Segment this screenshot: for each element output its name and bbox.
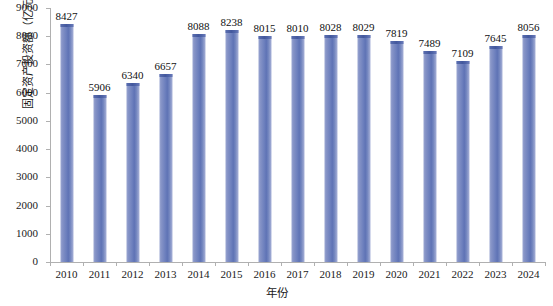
bar[interactable] <box>489 46 502 262</box>
y-tick-label: 9000 <box>4 1 38 13</box>
bar[interactable] <box>357 35 370 262</box>
x-tick-label: 2021 <box>413 268 446 280</box>
y-tick-label: 1000 <box>4 227 38 239</box>
bar-top-cap <box>423 51 436 54</box>
x-tick-label: 2013 <box>149 268 182 280</box>
y-tick-label: 7000 <box>4 57 38 69</box>
x-tick-label: 2018 <box>314 268 347 280</box>
x-tick-label: 2024 <box>512 268 545 280</box>
bar-slot: 8015 <box>248 8 281 262</box>
y-tick-label: 0 <box>4 255 38 267</box>
x-tick-mark <box>248 262 249 266</box>
x-tick-mark <box>380 262 381 266</box>
bar-slot: 6657 <box>149 8 182 262</box>
x-axis-line <box>50 262 545 263</box>
bar[interactable] <box>159 74 172 262</box>
x-tick-label: 2016 <box>248 268 281 280</box>
bar-top-cap <box>291 36 304 39</box>
x-tick-label: 2015 <box>215 268 248 280</box>
bar-top-cap <box>489 46 502 49</box>
bar[interactable] <box>225 30 238 262</box>
x-tick-mark <box>281 262 282 266</box>
bar-top-cap <box>93 95 106 98</box>
x-tick-mark <box>446 262 447 266</box>
bar-slot: 8427 <box>50 8 83 262</box>
x-tick-mark <box>215 262 216 266</box>
bar[interactable] <box>291 36 304 262</box>
bar-slot: 7489 <box>413 8 446 262</box>
x-tick-label: 2017 <box>281 268 314 280</box>
bar[interactable] <box>423 51 436 262</box>
bar[interactable] <box>192 34 205 262</box>
bar[interactable] <box>522 35 535 262</box>
x-tick-mark <box>314 262 315 266</box>
y-tick-label: 2000 <box>4 199 38 211</box>
bar-top-cap <box>258 36 271 39</box>
y-tick-label: 5000 <box>4 114 38 126</box>
bar-top-cap <box>159 74 172 77</box>
x-tick-mark <box>479 262 480 266</box>
bar-slot: 7645 <box>479 8 512 262</box>
y-tick-label: 6000 <box>4 86 38 98</box>
y-tick-label: 8000 <box>4 29 38 41</box>
bar-slot: 8238 <box>215 8 248 262</box>
x-tick-label: 2012 <box>116 268 149 280</box>
bar[interactable] <box>126 83 139 262</box>
y-axis-title: 固定资产投资额（亿元） <box>19 0 35 163</box>
x-tick-mark <box>50 262 51 266</box>
bar-slot: 8029 <box>347 8 380 262</box>
x-tick-label: 2010 <box>50 268 83 280</box>
bar[interactable] <box>258 36 271 262</box>
bar-slot: 5906 <box>83 8 116 262</box>
bar[interactable] <box>390 41 403 262</box>
bar-slot: 7109 <box>446 8 479 262</box>
x-tick-label: 2011 <box>83 268 116 280</box>
y-tick-label: 3000 <box>4 170 38 182</box>
x-tick-mark <box>347 262 348 266</box>
bar-top-cap <box>60 24 73 27</box>
bar-value-label: 8056 <box>506 21 552 33</box>
bar-top-cap <box>357 35 370 38</box>
x-tick-label: 2019 <box>347 268 380 280</box>
bar-top-cap <box>225 30 238 33</box>
x-tick-mark <box>545 262 546 266</box>
x-tick-mark <box>116 262 117 266</box>
bar[interactable] <box>456 61 469 262</box>
x-tick-mark <box>512 262 513 266</box>
bar-slot: 8028 <box>314 8 347 262</box>
bar[interactable] <box>93 95 106 262</box>
x-axis-title: 年份 <box>0 284 553 300</box>
x-tick-label: 2014 <box>182 268 215 280</box>
x-tick-label: 2022 <box>446 268 479 280</box>
plot-area: 0100020003000400050006000700080009000 84… <box>50 8 545 262</box>
bar-top-cap <box>324 35 337 38</box>
bar-slot: 8088 <box>182 8 215 262</box>
x-tick-mark <box>149 262 150 266</box>
bar-top-cap <box>390 41 403 44</box>
bar-top-cap <box>456 61 469 64</box>
bar-top-cap <box>126 83 139 86</box>
x-tick-label: 2023 <box>479 268 512 280</box>
bar-slot: 6340 <box>116 8 149 262</box>
x-tick-mark <box>413 262 414 266</box>
x-tick-mark <box>83 262 84 266</box>
y-tick-label: 4000 <box>4 142 38 154</box>
bar-top-cap <box>192 34 205 37</box>
x-tick-mark <box>182 262 183 266</box>
x-tick-label: 2020 <box>380 268 413 280</box>
bar-slot: 8056 <box>512 8 545 262</box>
bar[interactable] <box>324 35 337 262</box>
bar-slot: 8010 <box>281 8 314 262</box>
bar[interactable] <box>60 24 73 262</box>
bar-top-cap <box>522 35 535 38</box>
bar-chart: 固定资产投资额（亿元） 0100020003000400050006000700… <box>0 0 553 306</box>
